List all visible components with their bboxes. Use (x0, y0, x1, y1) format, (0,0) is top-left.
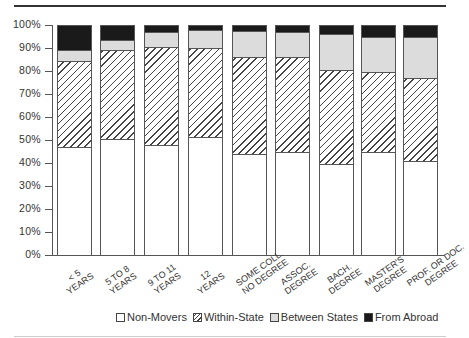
bar-segment-abroad (275, 25, 310, 32)
bar-segment-within (57, 61, 92, 147)
bar-segment-between (319, 34, 354, 70)
legend: Non-Movers Within-State Between States F… (116, 311, 441, 323)
bar-segment-within (403, 78, 438, 161)
y-tick-label: 60% (0, 110, 41, 122)
bar-segment-within (188, 48, 223, 137)
legend-label: Between States (281, 311, 358, 323)
bar (361, 25, 396, 255)
bar-segment-between (232, 31, 267, 57)
y-tick (45, 186, 52, 187)
bar-segment-abroad (319, 25, 354, 34)
legend-label: Non-Movers (127, 311, 187, 323)
y-tick (45, 140, 52, 141)
bar-segment-abroad (100, 25, 135, 40)
legend-label: From Abroad (375, 311, 439, 323)
bar-segment-within (319, 70, 354, 164)
y-tick (45, 209, 52, 210)
bar-segment-abroad (144, 25, 179, 32)
bar (188, 25, 223, 255)
bar-segment-non (319, 164, 354, 255)
x-tick-label: < 5YEARS (59, 262, 95, 296)
y-tick-label: 50% (0, 133, 41, 145)
x-axis (52, 255, 444, 256)
between-states-swatch-icon (270, 313, 279, 322)
bar-segment-non (275, 152, 310, 256)
top-rule (14, 5, 446, 7)
legend-item-within-state: Within-State (193, 311, 264, 323)
y-tick (45, 163, 52, 164)
y-tick-label: 40% (0, 156, 41, 168)
bar (100, 25, 135, 255)
bar-segment-within (100, 50, 135, 139)
bar (232, 25, 267, 255)
bar-segment-between (57, 50, 92, 60)
bottom-rule (14, 336, 446, 337)
legend-item-between-states: Between States (270, 311, 358, 323)
bar-segment-non (188, 137, 223, 255)
y-tick-label: 30% (0, 179, 41, 191)
y-tick-label: 10% (0, 225, 41, 237)
bar-segment-non (232, 154, 267, 255)
bar-segment-non (361, 152, 396, 256)
y-tick (45, 71, 52, 72)
bar-segment-between (361, 37, 396, 73)
bar-segment-within (232, 57, 267, 154)
y-tick (45, 25, 52, 26)
bar-segment-non (100, 139, 135, 255)
bar-segment-non (144, 145, 179, 255)
bar-segment-non (403, 161, 438, 255)
from-abroad-swatch-icon (364, 313, 373, 322)
legend-label: Within-State (204, 311, 264, 323)
bar (57, 25, 92, 255)
x-tick-label: 9 TO 11YEARS (146, 262, 183, 296)
within-state-swatch-icon (193, 313, 202, 322)
y-tick (45, 48, 52, 49)
y-tick-label: 0% (0, 248, 41, 260)
y-tick (45, 232, 52, 233)
x-tick-label: BACH.DEGREE (321, 258, 364, 296)
x-tick-label: 5 TO 8YEARS (102, 262, 138, 296)
x-tick-label: 12YEARS (190, 262, 226, 296)
bar-segment-abroad (57, 25, 92, 50)
bar (319, 25, 354, 255)
y-tick-label: 90% (0, 41, 41, 53)
bar-segment-between (100, 40, 135, 50)
bar-segment-between (144, 32, 179, 47)
bar-segment-within (275, 57, 310, 152)
bar-segment-abroad (361, 25, 396, 37)
bar-segment-abroad (403, 25, 438, 37)
y-tick-label: 70% (0, 87, 41, 99)
bar-segment-between (403, 37, 438, 77)
bar-segment-non (57, 147, 92, 255)
bar-segment-between (188, 30, 223, 48)
y-axis (52, 25, 53, 256)
y-tick (45, 117, 52, 118)
legend-item-non-movers: Non-Movers (116, 311, 187, 323)
bar-segment-between (275, 32, 310, 57)
y-tick-label: 20% (0, 202, 41, 214)
bar (144, 25, 179, 255)
y-tick-label: 100% (0, 18, 41, 30)
y-tick (45, 255, 52, 256)
legend-item-from-abroad: From Abroad (364, 311, 439, 323)
y-tick (45, 94, 52, 95)
bar-segment-within (144, 47, 179, 145)
bar-segment-within (361, 72, 396, 151)
x-tick-label: MASTER'SDEGREE (363, 254, 412, 296)
y-tick-label: 80% (0, 64, 41, 76)
non-movers-swatch-icon (116, 313, 125, 322)
bar (403, 25, 438, 255)
bar (275, 25, 310, 255)
